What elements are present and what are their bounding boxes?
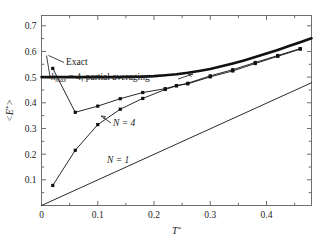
y-tick-label: 0.5 [25,73,37,83]
data-point-marker [96,123,99,126]
chart-canvas: 00.10.20.30.40.10.20.30.40.50.60.7T*<E*>… [0,0,322,239]
y-tick-label: 0.2 [25,150,37,160]
x-tick-label: 0.3 [204,210,216,220]
leader-arrow-kmax [189,74,194,77]
x-axis-label: T* [172,225,182,236]
data-point-marker [164,88,167,91]
x-tick-label: 0.1 [92,210,104,220]
y-tick-label: 0.4 [25,98,37,108]
annotation-kmax: kmax = 4, partial averaging [51,72,150,83]
y-axis-label: <E*> [4,99,15,122]
data-point-marker [141,91,144,94]
annotation-n1: N = 1 [106,155,129,165]
data-point-marker [209,74,212,77]
x-tick-label: 0 [39,210,44,220]
x-tick-label: 0.2 [148,210,160,220]
data-point-marker [51,67,54,70]
data-point-marker [51,184,54,187]
data-point-marker [276,54,279,57]
leader-line-kmax-left [47,56,51,77]
y-tick-label: 0.6 [25,47,37,57]
data-point-marker [186,82,189,85]
figure-container: 00.10.20.30.40.10.20.30.40.50.60.7T*<E*>… [0,0,322,239]
data-point-marker [231,68,234,71]
data-point-marker [119,108,122,111]
series-line [42,83,312,206]
data-point-marker [299,47,302,50]
data-point-marker [119,97,122,100]
x-axis-ticks [42,16,295,206]
y-tick-label: 0.3 [25,124,37,134]
data-point-marker [74,149,77,152]
x-tick-label: 0.4 [261,210,273,220]
leader-line-exact [49,56,65,63]
data-point-marker [175,84,178,87]
data-point-marker [96,105,99,108]
y-tick-label: 0.7 [25,21,37,31]
series-line [53,49,301,186]
data-point-marker [141,97,144,100]
y-tick-label: 0.1 [25,175,37,185]
annotation-n4: N = 4 [112,118,135,128]
data-point-marker [74,111,77,114]
annotation-exact: Exact [66,57,88,67]
data-point-marker [254,61,257,64]
